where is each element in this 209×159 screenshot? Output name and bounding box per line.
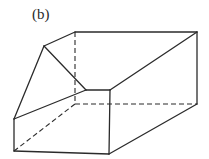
- edge-inner-to-top-right: [110, 32, 197, 90]
- visible-edges: [14, 32, 197, 154]
- hidden-edge-bottom-diagonal: [14, 104, 75, 151]
- polyhedron-drawing: [0, 0, 209, 159]
- edge-bottom-front: [14, 151, 109, 154]
- edge-apex-to-inner: [44, 46, 86, 90]
- edge-top-left-slant: [44, 32, 75, 46]
- solid-figure-diagram: (b): [0, 0, 209, 159]
- edge-bottom-right-slant: [109, 104, 197, 154]
- edge-front-vertical: [109, 90, 110, 154]
